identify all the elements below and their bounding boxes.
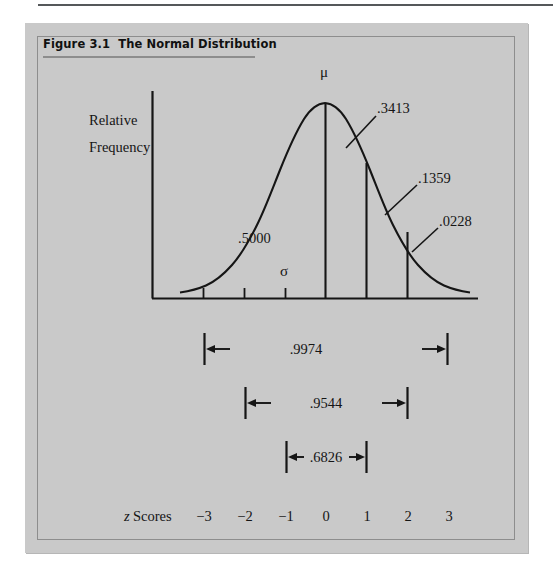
span-6826-right-arrowhead: [356, 453, 365, 461]
span-9544-right-arrowhead: [397, 399, 406, 407]
x-tick-label-minus3: −3: [196, 508, 211, 524]
y-axis-label-line1: Relative: [89, 112, 137, 128]
span-6826-label: .6826: [310, 449, 343, 465]
x-tick-label-2: 2: [404, 508, 411, 524]
sigma-label: σ: [280, 263, 288, 279]
x-axis-title-scores: Scores: [133, 508, 172, 524]
y-axis-label-line2: Frequency: [89, 139, 151, 155]
mu-label: μ: [320, 64, 328, 80]
leader-line-1359: [385, 185, 417, 215]
area-0228-label: .0228: [439, 213, 472, 229]
span-row-9544: .9544: [246, 387, 408, 419]
area-3413-label: .3413: [377, 100, 410, 116]
leader-line-3413: [346, 116, 376, 148]
span-row-6826: .6826: [287, 441, 367, 473]
span-9974-left-arrowhead: [206, 345, 215, 353]
x-tick-label-0: 0: [322, 508, 329, 524]
x-axis-title-z: z: [123, 508, 130, 524]
normal-distribution-chart: Relative Frequency μ σ .5000 .3413 .1359…: [0, 0, 553, 581]
span-row-9974: .9974: [205, 333, 448, 365]
span-9974-label: .9974: [290, 341, 323, 357]
leader-line-0228: [412, 228, 438, 252]
x-tick-label-1: 1: [363, 508, 370, 524]
area-1359-label: .1359: [418, 170, 451, 186]
span-9974-right-arrowhead: [437, 345, 446, 353]
x-tick-label-minus1: −1: [278, 508, 293, 524]
span-9544-label: .9544: [310, 395, 343, 411]
x-tick-label-3: 3: [445, 508, 452, 524]
x-tick-label-minus2: −2: [237, 508, 252, 524]
span-6826-left-arrowhead: [288, 453, 297, 461]
area-5000-label: .5000: [238, 230, 271, 246]
span-9544-left-arrowhead: [247, 399, 256, 407]
